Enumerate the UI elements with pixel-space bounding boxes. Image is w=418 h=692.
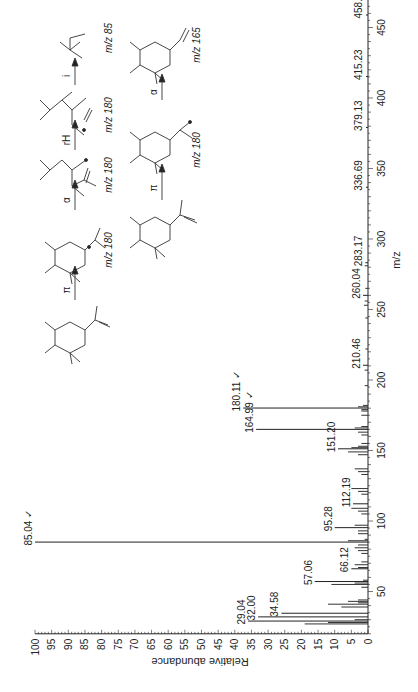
peak-label: 415.23 <box>353 49 364 80</box>
label-m180-bottom: m/z 180 <box>191 132 202 168</box>
arrow-label-rh-top: rH <box>61 135 72 146</box>
y-tick-label: 95 <box>46 638 57 650</box>
label-m165: m/z 165 <box>191 27 202 63</box>
x-tick-label: 50 <box>376 586 387 598</box>
fragmentation-scheme <box>40 28 197 364</box>
peak-label: 112.19 <box>341 477 352 507</box>
axes: 0510152025303540455055606570758085909510… <box>30 0 388 655</box>
peak-label: 151.20 <box>326 421 337 452</box>
peak-label: 260.04 <box>351 268 362 299</box>
peak-label: 458.85 <box>353 0 364 19</box>
x-tick-label: 300 <box>376 230 387 247</box>
peak-label: 336.69 <box>353 160 364 191</box>
y-tick-label: 25 <box>279 638 290 650</box>
structure-parent-bottom <box>130 200 197 259</box>
peaks <box>35 0 368 624</box>
peak-label: 57.06 <box>303 560 314 585</box>
y-tick-label: 35 <box>246 638 257 650</box>
arrow-label-i-top: i <box>61 75 72 77</box>
arrow-label-pi-bottom: π <box>148 184 159 191</box>
peak-label: 210.46 <box>351 338 362 369</box>
label-m180-a: m/z 180 <box>103 232 114 268</box>
y-tick-label: 40 <box>229 638 240 650</box>
y-tick-label: 55 <box>179 638 190 650</box>
scheme-labels: m/z 180 m/z 180 m/z 180 m/z 85 m/z 180 m… <box>61 23 202 294</box>
peak-label: 66.12 <box>339 547 350 572</box>
arrow-label-pi-top: π <box>61 286 72 293</box>
y-tick-label: 20 <box>296 638 307 650</box>
y-tick-label: 70 <box>129 638 140 650</box>
peak-label: 95.28 <box>323 506 334 531</box>
peak-label: 164.99 ✓ <box>244 391 255 432</box>
arrow-label-alpha-top: α <box>61 197 72 203</box>
y-tick-label: 45 <box>213 638 224 650</box>
y-tick-label: 5 <box>346 638 357 644</box>
x-tick-label: 250 <box>376 301 387 318</box>
label-m85: m/z 85 <box>103 23 114 53</box>
arrow-rh-top <box>72 120 78 150</box>
label-m180-c: m/z 180 <box>103 97 114 133</box>
y-tick-label: 100 <box>30 638 41 655</box>
peak-label: 85.04 ✓ <box>23 510 34 546</box>
peak-label: 34.58 <box>269 591 280 616</box>
structure-parent <box>45 306 110 364</box>
structure-m165 <box>130 28 189 84</box>
y-tick-label: 0 <box>363 638 374 644</box>
y-tick-label: 90 <box>63 638 74 650</box>
y-tick-label: 85 <box>79 638 90 650</box>
x-tick-label: 100 <box>376 512 387 529</box>
y-tick-label: 65 <box>146 638 157 650</box>
y-axis-title: Relative abundance <box>151 656 248 668</box>
y-tick-label: 60 <box>163 638 174 650</box>
x-tick-label: 150 <box>376 442 387 459</box>
x-tick-label: 350 <box>376 160 387 177</box>
label-m180-b: m/z 180 <box>103 157 114 193</box>
peak-label: 283.17 <box>353 235 364 266</box>
peak-labels: 29.0432.0034.5857.0666.1285.04 ✓95.28112… <box>23 0 364 625</box>
structure-m180-opened <box>40 159 96 197</box>
y-tick-label: 10 <box>329 638 340 650</box>
y-tick-label: 75 <box>113 638 124 650</box>
mass-spectrum-chart: 0510152025303540455055606570758085909510… <box>0 0 418 692</box>
x-axis-title: m/z <box>390 251 402 269</box>
arrow-i-top <box>72 58 78 85</box>
peak-label: 180.11 ✓ <box>231 371 242 412</box>
x-tick-label: 450 <box>376 19 387 36</box>
arrow-label-alpha-bottom: α <box>148 89 159 95</box>
mass-spectrum-figure: 0510152025303540455055606570758085909510… <box>0 0 418 692</box>
peak-label: 379.13 <box>353 100 364 131</box>
y-tick-label: 50 <box>196 638 207 650</box>
y-tick-label: 15 <box>313 638 324 650</box>
structure-m180-rearranged <box>40 92 92 135</box>
y-tick-label: 30 <box>263 638 274 650</box>
peak-label: 32.00 <box>246 595 257 620</box>
y-tick-label: 80 <box>96 638 107 650</box>
structure-m85 <box>60 34 85 58</box>
x-tick-label: 200 <box>376 371 387 388</box>
x-tick-label: 400 <box>376 89 387 106</box>
